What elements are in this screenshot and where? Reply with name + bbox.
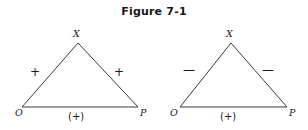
- right-triangle-apex-label-x: X: [226, 29, 233, 39]
- left-triangle-right-edge-sign: +: [114, 66, 124, 78]
- right-triangle-right-edge-sign: —: [262, 64, 274, 76]
- right-triangle-vertex-label-p: P: [289, 108, 295, 118]
- left-triangle-base-sign: (+): [68, 112, 84, 122]
- right-triangle-base-sign: (+): [220, 112, 236, 122]
- right-triangle-vertex-label-o: O: [170, 108, 178, 118]
- left-triangle-left-edge-sign: +: [30, 66, 40, 78]
- left-triangle-vertex-label-o: O: [15, 108, 23, 118]
- left-triangle-apex-label-x: X: [73, 29, 80, 39]
- right-triangle-left-edge-sign: —: [183, 64, 195, 76]
- left-triangle-vertex-label-p: P: [140, 108, 146, 118]
- figure-container: Figure 7-1 X O P + + (+) X O P — — (+): [0, 0, 308, 130]
